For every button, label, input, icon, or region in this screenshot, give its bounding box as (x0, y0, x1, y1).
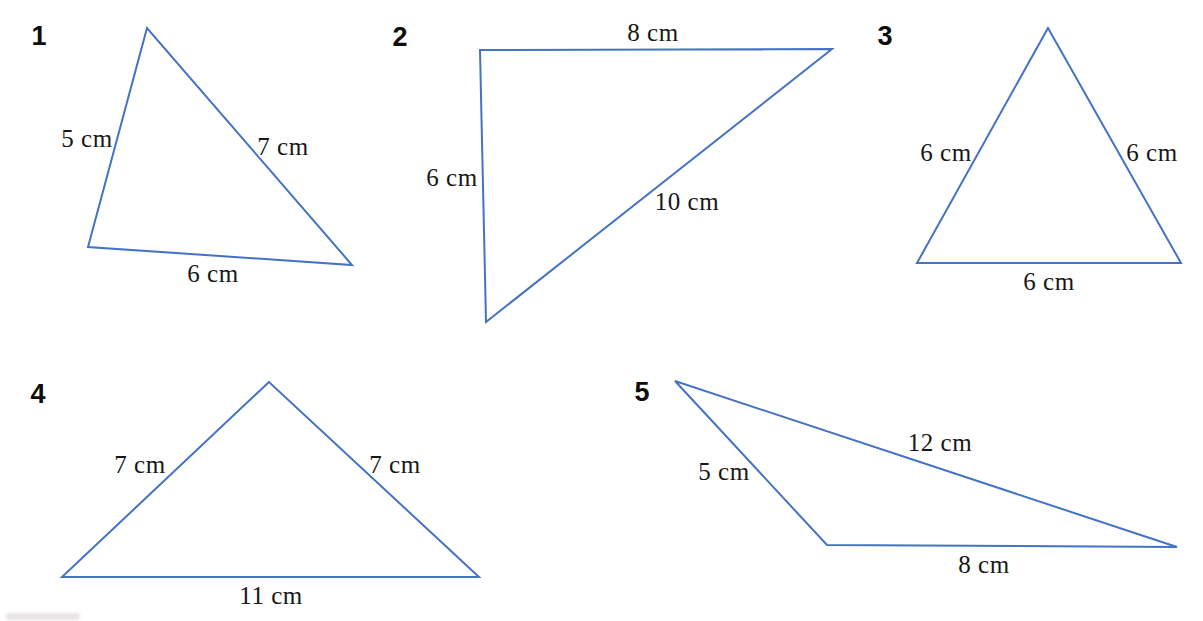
triangles-drawing (0, 0, 1203, 621)
triangle-2-outline (480, 49, 832, 322)
triangle-1-outline (88, 28, 352, 265)
triangle-4-outline (62, 382, 479, 577)
worksheet-figure-area: 15 cm7 cm6 cm28 cm6 cm10 cm36 cm6 cm6 cm… (0, 0, 1203, 621)
triangle-3-outline (917, 28, 1181, 263)
scan-artifact (6, 613, 80, 620)
triangle-5-outline (675, 381, 1177, 547)
